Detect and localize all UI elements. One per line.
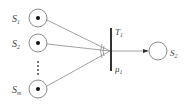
place-s1: S1 (12, 9, 47, 27)
svg-text:S1: S1 (12, 13, 20, 25)
token-icon (36, 87, 40, 91)
diagram-svg: S1 S2 Sm (0, 0, 187, 108)
svg-text:S2: S2 (170, 48, 178, 59)
input-arcs (47, 20, 110, 86)
place-output-s2: S2 (149, 42, 178, 60)
token-icon (36, 16, 40, 20)
output-arc (112, 49, 149, 53)
svg-text:S2: S2 (12, 38, 20, 50)
token-icon (36, 41, 40, 45)
svg-text:μ1: μ1 (114, 64, 123, 75)
ellipsis (37, 61, 39, 75)
petri-net-diagram: S1 S2 Sm (0, 0, 187, 108)
arrowhead-icon (143, 49, 149, 53)
svg-text:Sm: Sm (12, 84, 22, 96)
svg-text:T1: T1 (115, 27, 123, 38)
place-sm: Sm (12, 80, 47, 98)
place-s2: S2 (12, 34, 47, 52)
